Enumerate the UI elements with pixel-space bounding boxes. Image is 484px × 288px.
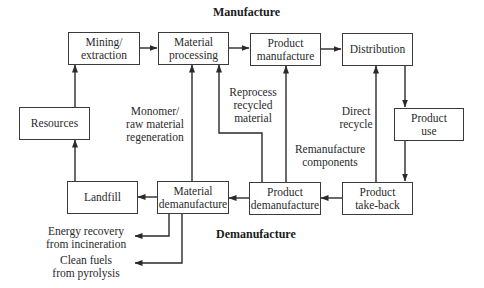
- label-line: Clean fuels: [52, 254, 120, 267]
- label-line: Monomer/: [124, 105, 186, 118]
- label-line: recycled: [223, 99, 283, 112]
- node-label: Product: [411, 112, 447, 125]
- node-label: take-back: [355, 199, 400, 212]
- node-product-manufacture: Product manufacture: [250, 33, 321, 66]
- node-material-processing: Material processing: [158, 32, 229, 65]
- section-manufacture: Manufacture: [213, 5, 280, 20]
- label-line: Energy recovery: [46, 225, 126, 238]
- arrow-energy-recovery: [135, 213, 169, 236]
- node-product-use: Product use: [394, 108, 464, 141]
- label-clean-fuels: Clean fuels from pyrolysis: [52, 254, 120, 280]
- label-line: raw material: [124, 118, 186, 131]
- node-label: Landfill: [84, 191, 121, 204]
- node-product-demanufacture: Product demanufacture: [249, 182, 321, 215]
- node-material-demanufacture: Material demanufacture: [157, 181, 229, 214]
- arrow-clean-fuels: [135, 213, 182, 263]
- node-label: extraction: [81, 49, 127, 62]
- node-label: use: [421, 125, 436, 138]
- label-line: material: [223, 112, 283, 125]
- label-line: components: [290, 156, 370, 169]
- node-label: Material: [174, 185, 213, 198]
- lifecycle-diagram: Manufacture Demanufacture Mining/ extrac…: [0, 0, 484, 288]
- node-label: Mining/: [85, 36, 122, 49]
- node-product-takeback: Product take-back: [342, 182, 413, 215]
- label-monomer-regeneration: Monomer/ raw material regeneration: [124, 105, 186, 144]
- node-label: demanufacture: [159, 198, 227, 211]
- label-line: Remanufacture: [290, 143, 370, 156]
- label-reprocess-recycled: Reprocess recycled material: [223, 86, 283, 125]
- label-direct-recycle: Direct recycle: [338, 105, 374, 131]
- node-label: Resources: [31, 117, 78, 130]
- label-line: from pyrolysis: [52, 267, 120, 280]
- node-label: processing: [169, 49, 218, 62]
- node-label: demanufacture: [251, 199, 319, 212]
- node-resources: Resources: [19, 107, 90, 140]
- label-remanufacture-components: Remanufacture components: [290, 143, 370, 169]
- node-label: Distribution: [350, 43, 406, 56]
- node-label: Product: [267, 186, 303, 199]
- label-line: recycle: [338, 118, 374, 131]
- label-line: Reprocess: [223, 86, 283, 99]
- node-label: Material: [174, 36, 213, 49]
- label-energy-recovery: Energy recovery from incineration: [46, 225, 126, 251]
- node-mining-extraction: Mining/ extraction: [68, 32, 140, 65]
- node-label: manufacture: [257, 50, 314, 63]
- node-label: Product: [360, 186, 396, 199]
- label-line: regeneration: [124, 131, 186, 144]
- label-line: from incineration: [46, 238, 126, 251]
- node-distribution: Distribution: [342, 33, 413, 66]
- node-label: Product: [268, 37, 304, 50]
- node-landfill: Landfill: [67, 181, 138, 214]
- section-demanufacture: Demanufacture: [216, 227, 296, 242]
- label-line: Direct: [338, 105, 374, 118]
